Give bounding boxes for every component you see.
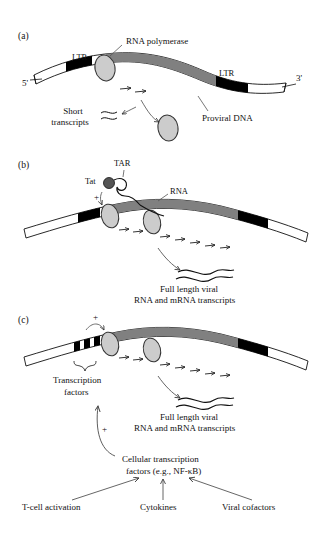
- panel-b-transcript-arrow: [158, 248, 180, 270]
- panel-b-ltr-right: [238, 190, 268, 250]
- input-arrow-cofactors: [189, 478, 252, 500]
- panel-b-plus-label: +: [94, 192, 99, 202]
- panel-a-short-transcripts-line1: Short: [46, 106, 100, 116]
- pathway-input-tcell-activation: T-cell activation: [22, 502, 80, 512]
- panel-c-ltr-right: [238, 318, 268, 378]
- input-arrow-tcell: [72, 478, 139, 500]
- panel-c-factor-activation-arrow: [86, 324, 104, 330]
- panel-a-ltr-left-label: LTR: [72, 53, 87, 63]
- panel-c-factor-brace: [74, 361, 96, 371]
- panel-b-tat-label: Tat: [85, 177, 96, 187]
- panel-a-proviral-body: [106, 45, 216, 105]
- panel-b-polymerase-2: [141, 208, 163, 235]
- panel-b-tar-leader: [123, 170, 124, 177]
- panel-a-short-transcript-squiggles: [101, 112, 117, 120]
- panel-b-tar-stem-loop: [114, 179, 140, 205]
- panel-a-detached-polymerase: [156, 113, 180, 142]
- cellular-factors-line1: Cellular transcription: [122, 454, 199, 464]
- panel-a-release-arrow: [141, 100, 159, 122]
- panel-c-transcription-factors-line1: Transcription: [53, 375, 101, 385]
- panel-b-letter: (b): [18, 160, 29, 171]
- panel-a-three-prime-label: 3': [296, 73, 302, 83]
- panel-c-plus-feedback-label: +: [102, 424, 107, 434]
- panel-c-transcripts-line1: Full length viral: [160, 412, 218, 422]
- panel-b-transcript-squiggles: [176, 270, 234, 282]
- panel-b: [24, 170, 308, 281]
- panel-b-rna-label: RNA: [170, 187, 188, 197]
- panel-a-short-transcripts-line2: transcripts: [40, 117, 100, 127]
- pathway-input-cytokines: Cytokines: [140, 502, 177, 512]
- panel-c-transcript-squiggles: [176, 398, 234, 410]
- panel-c-transcript-arrow: [158, 376, 180, 398]
- panel-b-transcripts-line2: RNA and mRNA transcripts: [134, 295, 235, 305]
- cellular-factors-line2: factors (e.g., NF-κB): [126, 466, 201, 476]
- panel-b-tat-activation-arrow: [101, 192, 103, 205]
- panel-c-transcription-factors-line2: factors: [64, 387, 89, 397]
- panel-b-transcripts-line1: Full length viral: [160, 284, 218, 294]
- panel-c-transcripts-line2: RNA and mRNA transcripts: [134, 423, 235, 433]
- panel-a-rna-polymerase-label: RNA polymerase: [126, 36, 188, 46]
- panel-a-transcription-arrows: [120, 88, 146, 92]
- panel-a: [30, 45, 296, 143]
- panel-b-tat-protein: [104, 178, 115, 189]
- panel-a-proviral-leader: [198, 96, 208, 111]
- panel-a-squiggle-arrow: [122, 107, 136, 114]
- panel-b-proviral-body: [110, 190, 240, 250]
- panel-c-polymerase-2: [141, 336, 163, 363]
- panel-c-letter: (c): [18, 315, 29, 326]
- panel-c-transcription-factor-bars: [74, 318, 100, 378]
- panel-a-ltr-right-label: LTR: [219, 69, 234, 79]
- panel-c-proviral-body: [110, 318, 240, 378]
- panel-b-tar-label: TAR: [114, 159, 130, 169]
- panel-b-transcription-arrows: [119, 229, 230, 248]
- panel-a-letter: (a): [18, 31, 29, 42]
- panel-a-proviral-dna-label: Proviral DNA: [202, 113, 253, 123]
- pathway-input-viral-cofactors: Viral cofactors: [222, 502, 275, 512]
- panel-c-plus-top-label: +: [93, 312, 98, 322]
- panel-c-transcription-arrows: [119, 357, 230, 376]
- panel-a-five-prime-label: 5': [22, 78, 28, 88]
